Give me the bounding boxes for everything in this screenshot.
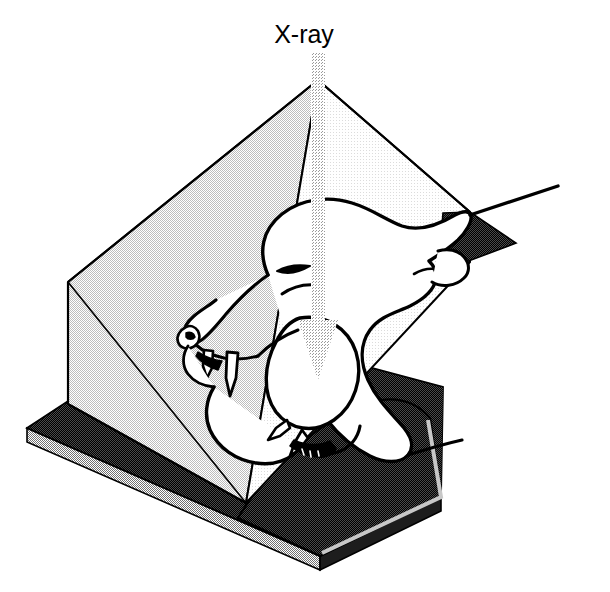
skull-ear: [432, 250, 469, 286]
skull-nostril: [186, 332, 195, 339]
xray-diagram-svg: [0, 0, 610, 592]
beam-shaft: [311, 52, 325, 325]
figure-root: X-ray: [0, 0, 610, 592]
skull-back-contour: [470, 186, 558, 215]
